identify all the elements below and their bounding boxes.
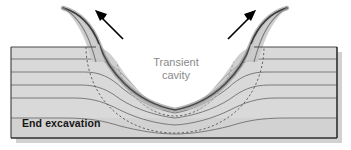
- ejecta-arrow-left: [95, 10, 123, 39]
- stage-label: End excavation: [22, 117, 100, 129]
- crater-diagram-svg: Transient cavity End excavation: [0, 0, 351, 150]
- crater-diagram: Transient cavity End excavation: [0, 0, 351, 150]
- transient-cavity-label-line2: cavity: [162, 69, 191, 81]
- transient-cavity-label-line1: Transient: [153, 56, 198, 68]
- ejecta-arrow-right: [228, 10, 256, 39]
